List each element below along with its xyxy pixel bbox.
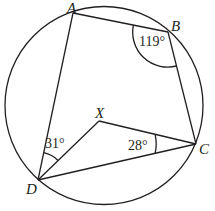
geometry-diagram: A B C D X 119° 31° 28° bbox=[0, 0, 215, 211]
angle-label-d: 31° bbox=[45, 136, 65, 151]
point-label-x: X bbox=[94, 105, 105, 121]
segment-bc bbox=[168, 32, 196, 144]
segment-ab bbox=[73, 13, 168, 32]
angle-label-b: 119° bbox=[139, 34, 165, 49]
point-label-b: B bbox=[171, 18, 180, 34]
angle-label-c: 28° bbox=[128, 138, 148, 153]
angle-arc-d bbox=[44, 153, 58, 161]
diagram-canvas: A B C D X 119° 31° 28° bbox=[0, 0, 215, 211]
angle-arc-c bbox=[155, 134, 156, 153]
segment-da bbox=[38, 13, 73, 180]
point-label-d: D bbox=[25, 181, 37, 197]
point-label-a: A bbox=[66, 0, 77, 16]
point-label-c: C bbox=[199, 141, 210, 157]
